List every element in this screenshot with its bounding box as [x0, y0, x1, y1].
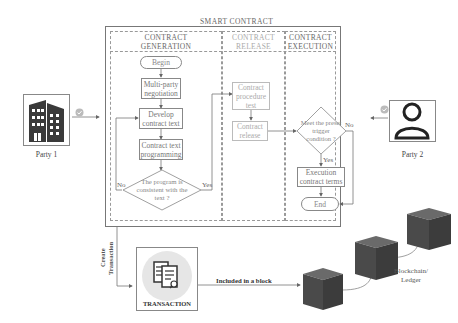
blockchain-label-line: Blockchain/: [386, 267, 436, 276]
blockchain-label-line: Ledger: [386, 276, 436, 285]
party-1-label: Party 1: [23, 150, 70, 159]
step-contract-release: Contract release: [232, 121, 268, 141]
blockchain-blocks: [303, 202, 453, 312]
create-transaction-label: Create Transaction: [99, 238, 119, 278]
decision-consistency-text: The program is consistent with the text …: [135, 178, 189, 202]
block-cube-icon: [407, 208, 451, 250]
step-contract-procedure-test: Contract procedure test: [232, 82, 270, 110]
create-label-line: Create: [99, 249, 106, 268]
step-develop-contract-text: Develop contract text: [139, 108, 183, 129]
check-badge-icon: [380, 105, 389, 114]
create-label-line: Transaction: [107, 241, 114, 274]
begin-terminal: Begin: [140, 56, 182, 69]
no-label: No: [345, 121, 354, 129]
included-in-block-label: Included in a block: [216, 277, 272, 284]
step-contract-text-programming: Contract text programming: [139, 139, 183, 160]
building-icon: [24, 95, 69, 145]
party-1-card: [23, 94, 70, 146]
party-2-card: [389, 100, 436, 142]
block-cube-icon: [303, 268, 343, 310]
step-multi-party-negotiation: Multi-party negotiation: [141, 78, 181, 99]
yes-label: Yes: [323, 156, 333, 164]
no-label: No: [117, 181, 126, 189]
step-execution-contract-terms: Execution contract terms: [297, 167, 345, 187]
user-icon: [390, 101, 435, 141]
check-badge-icon: [75, 108, 84, 117]
yes-label: Yes: [202, 181, 212, 189]
transaction-label: TRANSACTION: [136, 300, 198, 307]
blockchain-ledger-label: Blockchain/ Ledger: [386, 267, 436, 285]
party-2-label: Party 2: [389, 150, 436, 159]
decision-trigger-text: Meet the preset trigger condition ?: [300, 119, 342, 143]
